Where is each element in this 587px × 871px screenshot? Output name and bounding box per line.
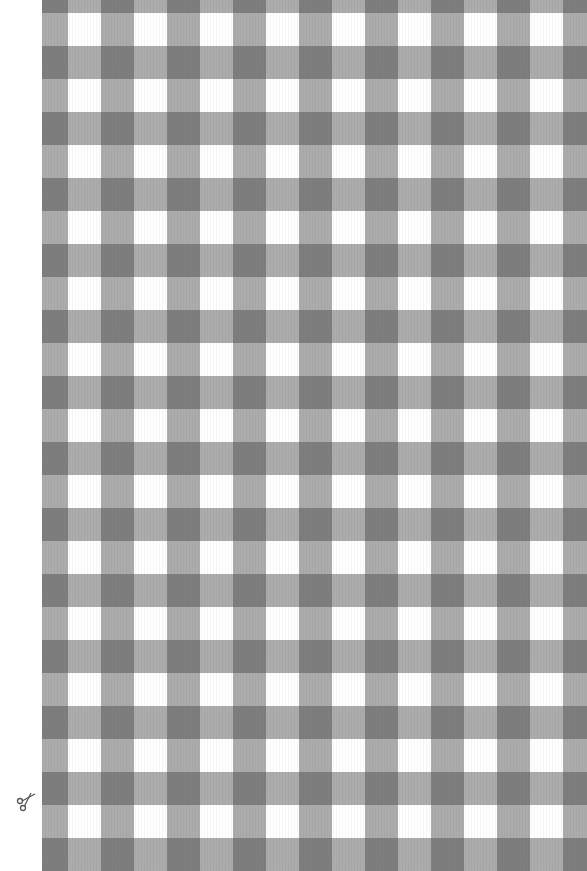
gingham-pattern (42, 0, 587, 871)
scissors-icon (14, 790, 38, 814)
left-margin (0, 0, 42, 871)
